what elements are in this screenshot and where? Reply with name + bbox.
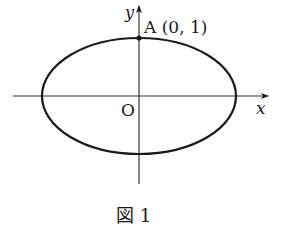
x-axis-label: x <box>256 98 266 118</box>
y-axis-label: y <box>124 3 135 22</box>
figure-caption: 図 1 <box>116 205 151 226</box>
origin-label: O <box>121 100 135 120</box>
point-a-label: A (0, 1) <box>143 17 207 37</box>
ellipse-diagram: y A (0, 1) O x 図 1 <box>0 0 285 241</box>
point-a-marker <box>136 35 141 40</box>
